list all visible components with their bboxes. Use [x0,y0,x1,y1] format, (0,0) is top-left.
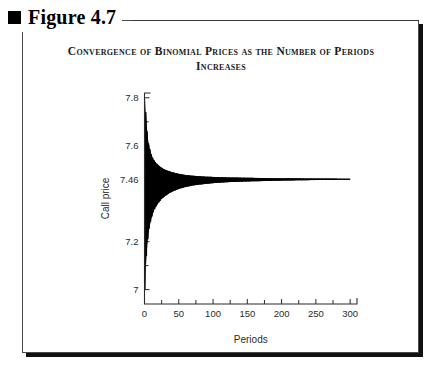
chart-title: Convergence of Binomial Prices as the Nu… [46,44,396,74]
black-square-icon [8,11,21,24]
figure-label: Figure 4.7 [28,6,116,29]
figure-header: Figure 4.7 [8,2,122,32]
figure-header-rule [132,20,419,21]
figure-container: Figure 4.7 Convergence of Binomial Price… [0,0,448,383]
